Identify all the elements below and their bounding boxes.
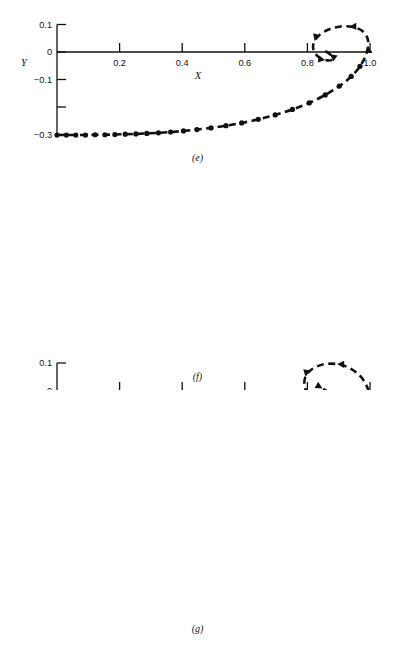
- panel-caption-e: (e): [0, 152, 395, 163]
- data-point: [337, 84, 342, 89]
- direction-arrow: [365, 46, 373, 54]
- y-tick-label: −0.3: [34, 130, 52, 140]
- data-point: [73, 132, 78, 137]
- plot-area-e: 0.10−0.1−0.30.20.40.60.81.0XY: [0, 0, 395, 172]
- x-tick-label: 0.4: [176, 58, 189, 68]
- x-tick-label: 0.6: [238, 58, 251, 68]
- x-tick-label: 0.2: [113, 58, 126, 68]
- data-point: [123, 132, 128, 137]
- direction-arrow: [337, 361, 344, 368]
- data-point: [133, 131, 138, 136]
- data-point: [323, 92, 328, 97]
- data-point: [83, 132, 88, 137]
- y-tick-label: −0.1: [34, 75, 52, 85]
- data-point: [64, 132, 69, 137]
- data-point: [256, 117, 261, 122]
- plot-area-g: 0.10−0.2−0.4−0.60.20.40.60.81.0XY: [0, 392, 395, 647]
- panel-e: 0.10−0.1−0.30.20.40.60.81.0XY: [0, 0, 395, 172]
- x-tick-label: 1.0: [364, 58, 377, 68]
- data-point: [93, 132, 98, 137]
- trajectory-curve: [57, 26, 368, 135]
- data-point: [208, 125, 213, 130]
- data-point: [181, 128, 186, 133]
- data-point: [112, 132, 117, 137]
- data-point: [54, 132, 59, 137]
- direction-arrow: [349, 23, 356, 30]
- y-tick-label: 0.1: [39, 358, 52, 368]
- y-tick-label: 0.1: [39, 20, 52, 30]
- y-tick-label: 0: [47, 47, 52, 57]
- panel-caption-g: (g): [0, 623, 395, 634]
- data-point: [156, 130, 161, 135]
- data-point: [357, 64, 362, 69]
- data-point: [194, 127, 199, 132]
- data-point: [290, 107, 295, 112]
- x-axis-label: X: [194, 70, 202, 81]
- direction-arrow: [315, 382, 325, 390]
- y-axis-label: Y: [21, 57, 28, 68]
- data-point: [223, 123, 228, 128]
- panel-caption-f: (f): [0, 371, 395, 382]
- plot-area-f: 0.10−0.1−0.3−0.50.20.40.60.81.0XY: [0, 175, 395, 390]
- data-point: [168, 129, 173, 134]
- x-tick-label: 0.8: [301, 58, 314, 68]
- data-point: [102, 132, 107, 137]
- data-point: [307, 100, 312, 105]
- data-point: [144, 131, 149, 136]
- direction-arrow: [318, 55, 326, 63]
- data-point: [349, 74, 354, 79]
- panel-g: 0.10−0.2−0.4−0.60.20.40.60.81.0XY: [0, 392, 395, 647]
- data-point: [239, 120, 244, 125]
- panel-f: 0.10−0.1−0.3−0.50.20.40.60.81.0XY: [0, 175, 395, 390]
- data-point: [273, 112, 278, 117]
- y-tick-label: 0: [47, 386, 52, 390]
